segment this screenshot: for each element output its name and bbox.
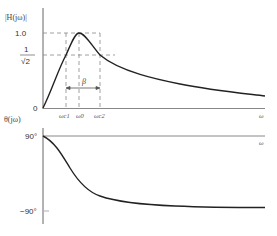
- beta-label: β: [81, 77, 86, 86]
- xtick-wc1: ωc1: [59, 112, 70, 119]
- reference-dashes: [43, 33, 115, 108]
- ytick-p90: 90°: [25, 132, 37, 141]
- ytick-sqrt-num: 1: [24, 45, 29, 54]
- phase-curve: [43, 136, 265, 208]
- mag-xlabel: ω: [259, 112, 264, 119]
- xtick-w0: ω0: [76, 112, 85, 119]
- bandwidth-arrow: [66, 87, 100, 90]
- ytick-one: 1.0: [15, 29, 27, 38]
- ytick-m90: −90°: [20, 207, 37, 216]
- phase-ylabel: θ(jω): [4, 115, 21, 124]
- mag-ylabel: |H(jω)|: [5, 13, 27, 22]
- magnitude-curve: [43, 33, 265, 108]
- ytick-sqrt-den: √2: [21, 57, 30, 66]
- xtick-wc2: ωc2: [94, 112, 105, 119]
- bandpass-response-figure: |H(jω)| 1.0 1 √2 0 ωc1 ω0 ωc2 β ω θ(jω) …: [0, 0, 277, 236]
- phase-xlabel: ω: [259, 139, 264, 146]
- ytick-zero: 0: [33, 104, 38, 113]
